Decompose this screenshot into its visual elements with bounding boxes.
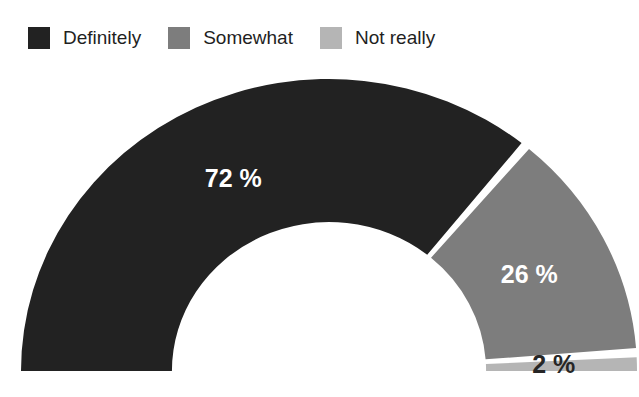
segment-definitely	[21, 79, 522, 371]
data-label-somewhat: 26 %	[501, 260, 558, 288]
data-label-not-really: 2 %	[532, 350, 575, 378]
half-donut-chart: 72 %26 %2 %	[0, 0, 639, 397]
data-label-definitely: 72 %	[205, 164, 262, 192]
chart-canvas: Definitely Somewhat Not really 72 %26 %2…	[0, 0, 639, 397]
